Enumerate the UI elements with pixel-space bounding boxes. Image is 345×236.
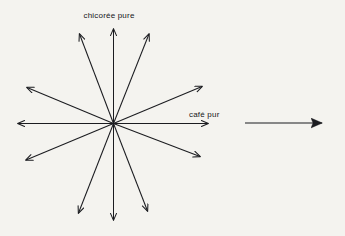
ray-down-right-steep (114, 124, 148, 212)
ray-down-left-shallow (26, 124, 114, 161)
ray-up-right-steep (114, 34, 150, 124)
ray-up-left-shallow (27, 88, 114, 124)
axis-label-cafe-pur: café pur (189, 111, 220, 119)
figure-canvas: chicorée pure café pur (0, 0, 345, 236)
axis-label-chicoree-pure: chicorée pure (83, 12, 134, 20)
star-ray-group (18, 29, 208, 220)
ray-down-left-steep (79, 124, 114, 214)
ray-down-right-shallow (114, 124, 201, 157)
ray-up-left-steep (80, 34, 114, 124)
star-diagram-svg (0, 0, 345, 236)
